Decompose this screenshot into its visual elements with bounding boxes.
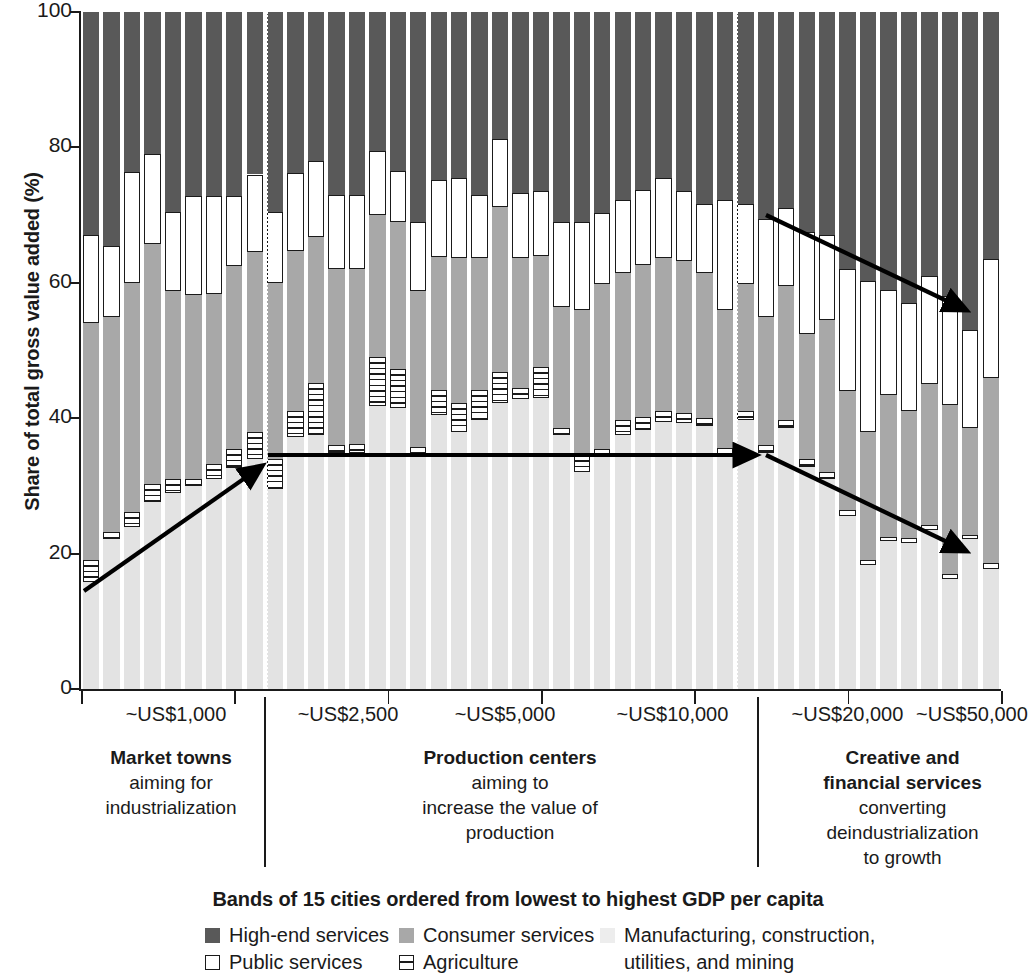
bar-18[interactable] (451, 12, 467, 689)
segment-highend-34 (778, 12, 794, 208)
bar-24[interactable] (574, 12, 590, 689)
segment-manufacturing-41 (921, 530, 937, 689)
segment-consumer-8 (247, 252, 263, 431)
segment-consumer-34 (778, 286, 794, 420)
chart-caption: Bands of 15 cities ordered from lowest t… (0, 888, 1036, 911)
bar-9[interactable] (267, 12, 283, 689)
bar-1[interactable] (103, 12, 119, 689)
bar-44[interactable] (983, 12, 999, 689)
segment-manufacturing-18 (451, 432, 467, 689)
segment-public-33 (758, 219, 774, 317)
segment-agriculture-30 (696, 418, 712, 426)
bar-29[interactable] (676, 12, 692, 689)
x-category-label-5: ~US$50,000 (908, 703, 1036, 726)
segment-highend-14 (369, 12, 385, 151)
x-category-label-0: ~US$1,000 (86, 703, 266, 726)
segment-manufacturing-22 (533, 398, 549, 689)
bar-6[interactable] (206, 12, 222, 689)
y-tick-mark-40 (70, 417, 79, 419)
segment-consumer-22 (533, 256, 549, 368)
bar-31[interactable] (717, 12, 733, 689)
segment-public-44 (983, 259, 999, 377)
bar-28[interactable] (655, 12, 671, 689)
bar-32[interactable] (737, 12, 753, 689)
bar-26[interactable] (615, 12, 631, 689)
segment-consumer-26 (615, 273, 631, 420)
segment-consumer-37 (839, 391, 855, 509)
segment-public-4 (165, 212, 181, 291)
bar-22[interactable] (533, 12, 549, 689)
segment-highend-37 (839, 12, 855, 269)
bar-2[interactable] (124, 12, 140, 689)
segment-manufacturing-35 (799, 467, 815, 689)
bar-10[interactable] (287, 12, 303, 689)
bar-4[interactable] (165, 12, 181, 689)
bar-27[interactable] (635, 12, 651, 689)
bar-36[interactable] (819, 12, 835, 689)
bar-17[interactable] (431, 12, 447, 689)
bar-34[interactable] (778, 12, 794, 689)
segment-highend-29 (676, 12, 692, 191)
segment-agriculture-37 (839, 510, 855, 517)
segment-agriculture-39 (880, 537, 896, 542)
segment-public-28 (655, 178, 671, 259)
bar-39[interactable] (880, 12, 896, 689)
bar-23[interactable] (553, 12, 569, 689)
bar-21[interactable] (512, 12, 528, 689)
bar-33[interactable] (758, 12, 774, 689)
group-line-2-0: converting (859, 797, 947, 818)
bar-30[interactable] (696, 12, 712, 689)
segment-agriculture-43 (962, 535, 978, 539)
segment-manufacturing-17 (431, 415, 447, 689)
bar-14[interactable] (369, 12, 385, 689)
segment-public-27 (635, 190, 651, 265)
bar-5[interactable] (185, 12, 201, 689)
group-line-1-1: increase the value of (422, 797, 597, 818)
bar-25[interactable] (594, 12, 610, 689)
segment-public-32 (737, 204, 753, 285)
bar-8[interactable] (247, 12, 263, 689)
segment-public-21 (512, 193, 528, 257)
segment-manufacturing-6 (206, 479, 222, 689)
bar-41[interactable] (921, 12, 937, 689)
bar-20[interactable] (492, 12, 508, 689)
segment-consumer-10 (287, 251, 303, 411)
bar-35[interactable] (799, 12, 815, 689)
bar-11[interactable] (308, 12, 324, 689)
bar-40[interactable] (901, 12, 917, 689)
segment-highend-36 (819, 12, 835, 235)
plot-area (81, 12, 1001, 689)
bar-3[interactable] (144, 12, 160, 689)
segment-public-34 (778, 208, 794, 286)
segment-highend-25 (594, 12, 610, 213)
bar-13[interactable] (349, 12, 365, 689)
bar-37[interactable] (839, 12, 855, 689)
segment-agriculture-6 (206, 464, 222, 479)
bar-38[interactable] (860, 12, 876, 689)
segment-public-12 (328, 195, 344, 269)
y-tick-mark-20 (70, 553, 79, 555)
bar-0[interactable] (83, 12, 99, 689)
segment-agriculture-19 (471, 390, 487, 420)
bar-16[interactable] (410, 12, 426, 689)
segment-public-37 (839, 269, 855, 391)
segment-agriculture-0 (83, 560, 99, 582)
bar-43[interactable] (962, 12, 978, 689)
segment-consumer-38 (860, 432, 876, 561)
bar-19[interactable] (471, 12, 487, 689)
manufacturing-swatch-icon (600, 928, 615, 943)
group-line-1-2: production (466, 822, 555, 843)
segment-consumer-40 (901, 411, 917, 538)
bar-12[interactable] (328, 12, 344, 689)
x-axis-line (79, 689, 1001, 691)
bar-7[interactable] (226, 12, 242, 689)
segment-consumer-23 (553, 307, 569, 428)
segment-highend-28 (655, 12, 671, 178)
group-line-1-0: aiming to (471, 772, 548, 793)
segment-consumer-21 (512, 258, 528, 389)
segment-consumer-2 (124, 283, 140, 512)
y-tick-label-20: 20 (26, 540, 72, 564)
segment-agriculture-33 (758, 445, 774, 453)
bar-42[interactable] (942, 12, 958, 689)
bar-15[interactable] (390, 12, 406, 689)
